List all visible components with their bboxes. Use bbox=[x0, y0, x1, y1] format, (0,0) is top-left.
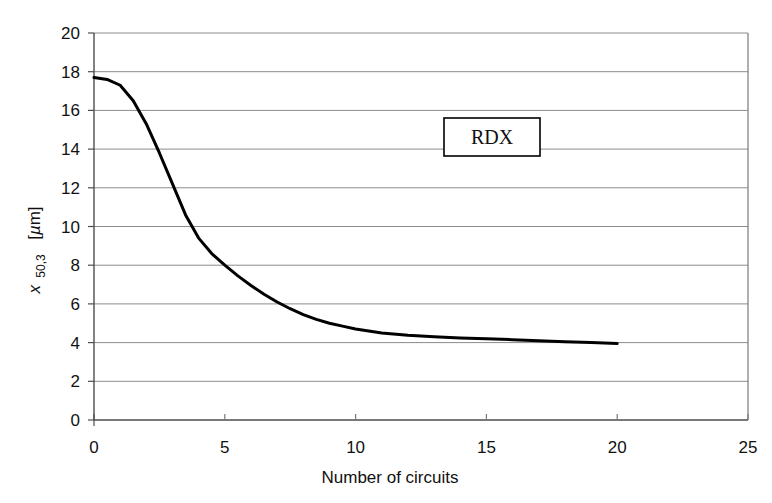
x-tick-label: 15 bbox=[477, 438, 496, 457]
y-tick-label: 10 bbox=[61, 218, 80, 237]
x-tick-label: 5 bbox=[220, 438, 229, 457]
x-tick-label: 20 bbox=[608, 438, 627, 457]
y-tick-label: 12 bbox=[61, 179, 80, 198]
x-tick-label: 25 bbox=[739, 438, 758, 457]
y-axis-title-text: x 50,3 [µm] bbox=[25, 206, 48, 294]
y-axis-subscript: 50,3 bbox=[34, 254, 48, 278]
x-tick-labels: 0 5 10 15 20 25 bbox=[89, 438, 757, 457]
y-tick-label: 6 bbox=[71, 295, 80, 314]
y-axis-unit-mu: µ bbox=[25, 225, 44, 236]
y-axis-ticks bbox=[88, 33, 94, 420]
y-tick-label: 2 bbox=[71, 372, 80, 391]
chart-figure: 20 18 16 14 12 10 8 6 4 2 0 0 5 10 15 20… bbox=[0, 0, 772, 503]
y-tick-label: 4 bbox=[71, 334, 80, 353]
chart-canvas: 20 18 16 14 12 10 8 6 4 2 0 0 5 10 15 20… bbox=[0, 0, 772, 503]
y-axis-symbol: x bbox=[25, 285, 44, 295]
y-tick-label: 16 bbox=[61, 101, 80, 120]
y-tick-label: 20 bbox=[61, 24, 80, 43]
y-tick-label: 18 bbox=[61, 63, 80, 82]
y-tick-label: 0 bbox=[71, 411, 80, 430]
y-axis-unit-m: m bbox=[25, 211, 44, 225]
x-axis-title: Number of circuits bbox=[322, 468, 459, 487]
legend-rdx: RDX bbox=[444, 118, 540, 156]
y-axis-title: x 50,3 [µm] bbox=[25, 206, 48, 294]
y-tick-labels: 20 18 16 14 12 10 8 6 4 2 0 bbox=[61, 24, 80, 430]
x-tick-label: 10 bbox=[346, 438, 365, 457]
y-tick-label: 8 bbox=[71, 256, 80, 275]
y-axis-unit-close: ] bbox=[25, 206, 44, 211]
y-tick-label: 14 bbox=[61, 140, 80, 159]
x-tick-label: 0 bbox=[89, 438, 98, 457]
legend-label: RDX bbox=[471, 126, 514, 148]
